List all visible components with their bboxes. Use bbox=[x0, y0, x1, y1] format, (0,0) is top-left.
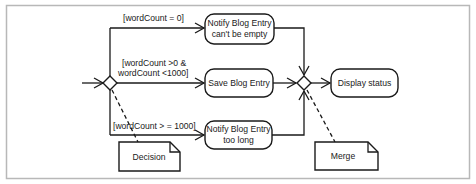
guard-bottom: [wordCount > = 1000] bbox=[113, 121, 196, 131]
merge-note-label: Merge bbox=[331, 151, 356, 161]
action-notify-empty: Notify Blog Entry can't be empty bbox=[205, 14, 274, 44]
decision-note: Decision bbox=[119, 142, 180, 171]
activity-diagram: [wordCount = 0] [wordCount >0 & wordCoun… bbox=[0, 0, 476, 184]
action-notify-empty-line2: can't be empty bbox=[212, 29, 268, 39]
action-notify-long-line2: too long bbox=[223, 135, 254, 145]
action-notify-long-line1: Notify Blog Entry bbox=[207, 124, 272, 134]
merge-note: Merge bbox=[315, 142, 378, 170]
action-display-label: Display status bbox=[338, 78, 392, 88]
guard-middle-line1: [wordCount >0 & bbox=[122, 58, 187, 68]
guard-top: [wordCount = 0] bbox=[123, 13, 184, 23]
action-display-status: Display status bbox=[331, 69, 398, 97]
action-notify-empty-line1: Notify Blog Entry bbox=[208, 18, 273, 28]
guard-middle-line2: wordCount <1000] bbox=[117, 68, 188, 78]
decision-note-label: Decision bbox=[133, 152, 166, 162]
action-save: Save Blog Entry bbox=[205, 69, 273, 97]
action-save-label: Save Blog Entry bbox=[208, 78, 270, 88]
action-notify-long: Notify Blog Entry too long bbox=[205, 121, 272, 149]
